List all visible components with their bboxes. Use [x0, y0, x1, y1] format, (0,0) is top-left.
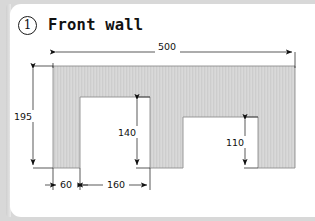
dim-label-500: 500 — [158, 41, 176, 52]
front-wall-drawing: 500 195 60 — [0, 0, 315, 221]
dimension-first-opening-height: 140 — [116, 97, 150, 168]
dimension-left-pier-width: 60 — [45, 168, 88, 190]
page-root: 1 Front wall — [0, 0, 315, 221]
dim-label-160: 160 — [107, 179, 125, 190]
drawing-canvas: 500 195 60 — [0, 0, 315, 221]
dim-label-140: 140 — [118, 127, 136, 138]
wall-outline — [53, 66, 295, 168]
wall-shape — [53, 66, 295, 168]
dim-label-60: 60 — [60, 179, 72, 190]
dim-label-110: 110 — [226, 137, 244, 148]
dimension-overall-height: 195 — [12, 66, 53, 168]
dimension-first-opening-width: 160 — [83, 168, 150, 191]
dimension-overall-width: 500 — [53, 41, 295, 68]
dimension-second-opening-height: 110 — [224, 117, 258, 168]
dim-label-195: 195 — [14, 111, 32, 122]
